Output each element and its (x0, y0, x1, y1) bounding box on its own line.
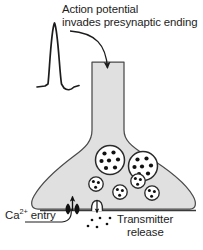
transmitter-release-label-line-1: Transmitter (117, 213, 173, 226)
transmitter-release-label: Transmitter release (117, 213, 173, 239)
presynaptic-terminal-shape (32, 62, 196, 209)
transmitter-release-label-line-2: release (117, 226, 173, 239)
action-potential-trace (37, 23, 79, 90)
released-transmitter-dots (87, 217, 112, 229)
action-potential-label-line-2: invades presynaptic ending (62, 16, 197, 29)
calcium-entry-suffix: entry (28, 209, 56, 221)
large-vesicle (96, 146, 125, 175)
small-vesicle (113, 185, 127, 199)
synapse-diagram: Action potential invades presynaptic end… (0, 0, 203, 250)
action-potential-label-line-1: Action potential (62, 3, 197, 16)
calcium-entry-label: Ca2+ entry (5, 209, 56, 222)
calcium-charge-superscript: 2+ (19, 207, 27, 216)
action-potential-label: Action potential invades presynaptic end… (62, 3, 197, 29)
calcium-symbol: Ca (5, 209, 19, 221)
small-vesicle (89, 177, 103, 191)
small-vesicle (131, 174, 145, 188)
presynaptic-neuron (32, 62, 196, 209)
small-vesicle (145, 186, 159, 200)
